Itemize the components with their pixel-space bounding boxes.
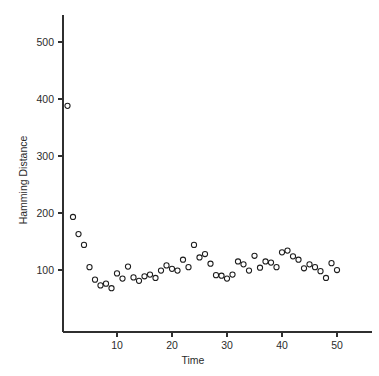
data-point bbox=[285, 248, 290, 253]
data-point bbox=[70, 214, 75, 219]
data-point bbox=[230, 272, 235, 277]
data-point bbox=[169, 266, 174, 271]
data-point bbox=[76, 231, 81, 236]
x-axis-title: Time bbox=[182, 354, 205, 366]
data-point bbox=[120, 276, 125, 281]
data-point bbox=[279, 250, 284, 255]
data-point bbox=[329, 261, 334, 266]
data-point bbox=[109, 286, 114, 291]
data-point bbox=[81, 242, 86, 247]
data-point bbox=[142, 274, 147, 279]
data-point bbox=[257, 265, 262, 270]
data-point bbox=[180, 257, 185, 262]
data-point bbox=[65, 103, 70, 108]
data-point bbox=[103, 281, 108, 286]
data-point bbox=[263, 259, 268, 264]
data-point bbox=[252, 253, 257, 258]
data-point bbox=[312, 265, 317, 270]
scatter-plot-figure: 100200300400500 1020304050 Time Hamming … bbox=[0, 0, 379, 376]
data-point bbox=[186, 265, 191, 270]
data-point bbox=[202, 251, 207, 256]
data-point bbox=[208, 261, 213, 266]
plot-canvas: 100200300400500 1020304050 Time Hamming … bbox=[0, 0, 379, 376]
data-points-layer bbox=[65, 103, 340, 291]
x-tick-label: 40 bbox=[276, 339, 288, 351]
y-tick-label: 400 bbox=[36, 93, 54, 105]
data-point bbox=[307, 262, 312, 267]
data-point bbox=[235, 259, 240, 264]
data-point bbox=[164, 263, 169, 268]
data-point bbox=[131, 275, 136, 280]
data-point bbox=[323, 275, 328, 280]
data-point bbox=[290, 254, 295, 259]
data-point bbox=[147, 272, 152, 277]
y-tick-label: 100 bbox=[36, 264, 54, 276]
y-tick-label: 200 bbox=[36, 207, 54, 219]
data-point bbox=[98, 283, 103, 288]
data-point bbox=[241, 262, 246, 267]
x-axis-ticks: 1020304050 bbox=[111, 332, 343, 351]
y-axis-title: Hamming Distance bbox=[17, 135, 29, 224]
y-axis-ticks: 100200300400500 bbox=[36, 36, 63, 276]
y-tick-label: 500 bbox=[36, 36, 54, 48]
data-point bbox=[87, 265, 92, 270]
data-point bbox=[136, 278, 141, 283]
data-point bbox=[334, 267, 339, 272]
data-point bbox=[114, 271, 119, 276]
data-point bbox=[125, 264, 130, 269]
data-point bbox=[92, 277, 97, 282]
data-point bbox=[175, 268, 180, 273]
data-point bbox=[296, 257, 301, 262]
x-tick-label: 50 bbox=[331, 339, 343, 351]
data-point bbox=[301, 266, 306, 271]
data-point bbox=[268, 260, 273, 265]
data-point bbox=[158, 268, 163, 273]
x-tick-label: 30 bbox=[221, 339, 233, 351]
data-point bbox=[246, 268, 251, 273]
y-tick-label: 300 bbox=[36, 150, 54, 162]
x-tick-label: 20 bbox=[166, 339, 178, 351]
data-point bbox=[213, 273, 218, 278]
data-point bbox=[224, 276, 229, 281]
data-point bbox=[274, 265, 279, 270]
data-point bbox=[219, 273, 224, 278]
data-point bbox=[318, 269, 323, 274]
data-point bbox=[197, 255, 202, 260]
data-point bbox=[153, 275, 158, 280]
data-point bbox=[191, 242, 196, 247]
x-tick-label: 10 bbox=[111, 339, 123, 351]
